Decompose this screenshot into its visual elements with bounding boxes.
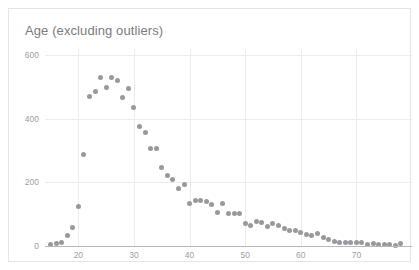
data-point bbox=[159, 165, 164, 170]
gridline-horizontal-400 bbox=[45, 119, 412, 120]
data-point bbox=[193, 198, 198, 203]
data-point bbox=[104, 85, 109, 90]
data-point bbox=[76, 204, 81, 209]
data-point bbox=[321, 235, 326, 240]
data-point bbox=[59, 240, 64, 245]
x-tick-label-60: 60 bbox=[296, 250, 305, 260]
gridline-vertical-50 bbox=[245, 49, 246, 246]
x-tick-label-50: 50 bbox=[240, 250, 249, 260]
data-point bbox=[248, 223, 253, 228]
gridline-vertical-30 bbox=[134, 49, 135, 246]
data-point bbox=[70, 225, 75, 230]
gridline-horizontal-600 bbox=[45, 55, 412, 56]
x-tick-label-70: 70 bbox=[352, 250, 361, 260]
data-point bbox=[237, 211, 242, 216]
y-tick-label-600: 600 bbox=[25, 50, 39, 60]
data-point bbox=[98, 75, 103, 80]
gridline-vertical-70 bbox=[356, 49, 357, 246]
chart-title: Age (excluding outliers) bbox=[25, 23, 163, 38]
data-point bbox=[220, 201, 225, 206]
data-point bbox=[154, 146, 159, 151]
data-point bbox=[148, 146, 153, 151]
data-point bbox=[131, 105, 136, 110]
data-point bbox=[282, 226, 287, 231]
x-tick-label-20: 20 bbox=[74, 250, 83, 260]
data-point bbox=[259, 220, 264, 225]
chart-card: Age (excluding outliers) 0200400600 2030… bbox=[8, 8, 411, 262]
data-point bbox=[209, 202, 214, 207]
data-point bbox=[332, 239, 337, 244]
data-point bbox=[93, 89, 98, 94]
data-point bbox=[198, 198, 203, 203]
data-point bbox=[126, 86, 131, 91]
data-point bbox=[232, 211, 237, 216]
gridline-horizontal-200 bbox=[45, 182, 412, 183]
data-point bbox=[81, 152, 86, 157]
data-point bbox=[187, 201, 192, 206]
data-point bbox=[115, 78, 120, 83]
gridline-vertical-20 bbox=[78, 49, 79, 246]
data-point bbox=[287, 228, 292, 233]
data-point bbox=[182, 182, 187, 187]
data-point bbox=[337, 240, 342, 245]
data-point bbox=[176, 186, 181, 191]
data-point bbox=[293, 228, 298, 233]
data-point bbox=[215, 210, 220, 215]
y-tick-label-400: 400 bbox=[25, 114, 39, 124]
data-point bbox=[137, 124, 142, 129]
data-point bbox=[326, 237, 331, 242]
y-tick-label-0: 0 bbox=[34, 241, 39, 251]
data-point bbox=[304, 232, 309, 237]
data-point bbox=[109, 75, 114, 80]
data-point bbox=[309, 233, 314, 238]
data-point bbox=[359, 240, 364, 245]
data-point bbox=[354, 240, 359, 245]
x-tick-label-40: 40 bbox=[185, 250, 194, 260]
gridline-vertical-40 bbox=[190, 49, 191, 246]
data-point bbox=[298, 230, 303, 235]
data-point bbox=[243, 221, 248, 226]
data-point bbox=[315, 231, 320, 236]
scatter-plot-area: 0200400600 203040506070 bbox=[45, 49, 412, 247]
data-point bbox=[343, 240, 348, 245]
data-point bbox=[270, 221, 275, 226]
data-point bbox=[65, 233, 70, 238]
data-point bbox=[87, 94, 92, 99]
data-point bbox=[265, 224, 270, 229]
y-tick-label-200: 200 bbox=[25, 177, 39, 187]
data-point bbox=[165, 173, 170, 178]
x-axis-line bbox=[45, 246, 412, 247]
data-point bbox=[143, 130, 148, 135]
data-point bbox=[348, 240, 353, 245]
data-point bbox=[204, 199, 209, 204]
data-point bbox=[276, 223, 281, 228]
gridline-vertical-60 bbox=[301, 49, 302, 246]
x-tick-label-30: 30 bbox=[129, 250, 138, 260]
data-point bbox=[226, 211, 231, 216]
data-point bbox=[120, 95, 125, 100]
data-point bbox=[254, 219, 259, 224]
